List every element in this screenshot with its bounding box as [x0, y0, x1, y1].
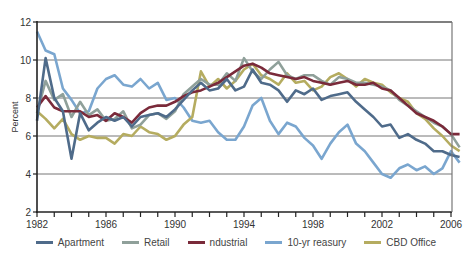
y-axis-ticks: 24681012: [20, 17, 37, 218]
x-tick-label: 1994: [233, 219, 256, 230]
series-line-apartment: [37, 58, 460, 159]
x-tick-label: 1986: [95, 219, 118, 230]
series-lines: [37, 32, 460, 178]
legend-label: CBD Office: [386, 237, 436, 248]
y-tick-label: 2: [25, 207, 31, 218]
legend-item: Retail: [122, 237, 170, 248]
y-tick-label: 8: [25, 93, 31, 104]
legend-swatch: [36, 241, 53, 244]
legend: ApartmentRetailndustrial10-yr reasuryCBD…: [0, 234, 472, 250]
legend-swatch: [188, 241, 205, 244]
y-tick-label: 6: [25, 131, 31, 142]
y-tick-label: 12: [20, 17, 32, 28]
legend-item: 10-yr reasury: [265, 237, 346, 248]
legend-label: 10-yr reasury: [287, 237, 346, 248]
x-tick-label: 2006: [440, 219, 463, 230]
x-tick-label: 1990: [164, 219, 187, 230]
legend-item: CBD Office: [364, 237, 436, 248]
series-line-10-yr-reasury: [37, 32, 460, 178]
y-axis-title: Percent: [10, 101, 20, 133]
y-tick-label: 10: [20, 55, 32, 66]
legend-label: Apartment: [58, 237, 104, 248]
legend-item: Apartment: [36, 237, 104, 248]
legend-swatch: [265, 241, 282, 244]
x-tick-label: 1998: [302, 219, 325, 230]
legend-swatch: [364, 241, 381, 244]
line-chart: 24681012 1982198619901994199820022006 Pe…: [0, 0, 472, 263]
gridlines: [37, 22, 452, 174]
x-tick-label: 2002: [371, 219, 394, 230]
series-line-ndustrial: [37, 64, 460, 134]
legend-label: ndustrial: [210, 237, 248, 248]
y-tick-label: 4: [25, 169, 31, 180]
x-axis-ticks: 1982198619901994199820022006: [26, 212, 463, 230]
legend-swatch: [122, 241, 139, 244]
legend-item: ndustrial: [188, 237, 248, 248]
x-tick-label: 1982: [26, 219, 49, 230]
legend-label: Retail: [144, 237, 170, 248]
